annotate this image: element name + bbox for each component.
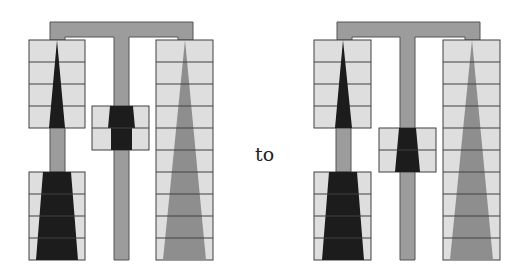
transition-label: to [255,143,274,165]
middle-block [92,106,149,150]
figure-after [314,22,500,260]
right-column [443,40,500,260]
left-bottom-block [314,172,371,260]
right-column [156,40,213,260]
middle-block [379,128,436,172]
left-bottom-block [29,172,85,260]
left-rod [336,126,351,172]
left-rod [50,126,65,172]
left-top-block [29,40,85,128]
left-top-block [314,40,371,128]
diagram-canvas [0,0,529,278]
figure-before [29,22,213,260]
